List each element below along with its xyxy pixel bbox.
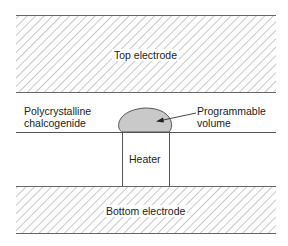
heater-label: Heater [129, 153, 161, 165]
chalcogenide-label-line1: Polycrystalline [24, 105, 91, 117]
programmable-volume-label-line1: Programmable [197, 105, 266, 117]
programmable-volume-label-line2: volume [197, 117, 231, 129]
chalcogenide-label-line2: chalcogenide [24, 117, 86, 129]
bottom-electrode-label: Bottom electrode [104, 205, 187, 217]
top-electrode-label: Top electrode [112, 49, 179, 61]
